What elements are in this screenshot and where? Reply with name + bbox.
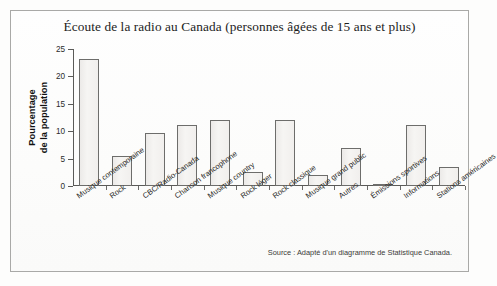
y-tick-mark xyxy=(68,131,73,132)
y-tick-mark xyxy=(68,49,73,50)
y-tick-label: 5 xyxy=(60,154,65,163)
y-tick-mark xyxy=(68,104,73,105)
y-axis-title-line1: Pourcentage xyxy=(27,89,39,145)
y-axis-title-line2: de la population xyxy=(39,82,51,153)
y-tick-mark xyxy=(68,159,73,160)
y-tick-label: 0 xyxy=(60,182,65,191)
y-axis-title: Pourcentage de la population xyxy=(25,49,53,186)
y-tick-label: 20 xyxy=(56,72,65,81)
y-tick-mark xyxy=(68,186,73,187)
y-tick-label: 25 xyxy=(56,45,65,54)
bar xyxy=(79,59,99,186)
y-tick-mark xyxy=(68,76,73,77)
figure-frame: Écoute de la radio au Canada (personnes … xyxy=(10,10,469,272)
source-note: Source : Adapté d'un diagramme de Statis… xyxy=(268,248,452,257)
x-tick-mark xyxy=(465,186,466,190)
y-tick-label: 10 xyxy=(56,127,65,136)
chart-title: Écoute de la radio au Canada (personnes … xyxy=(11,19,468,35)
y-tick-label: 15 xyxy=(56,99,65,108)
y-axis-line xyxy=(73,49,74,186)
